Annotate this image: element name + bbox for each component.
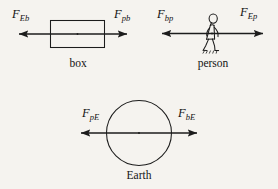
box-center-point [77,33,79,35]
force-label-F_Eb: FEb [12,8,29,22]
person-leg-back [203,39,208,50]
earth-center-point [138,132,140,134]
force-symbol-F_Ep: F [240,5,248,19]
force-label-F_Ep: FEp [240,6,257,20]
caption-box: box [52,58,104,70]
force-subscript-F_Eb: Eb [20,13,30,23]
person-center-point [211,33,213,35]
person-shoulders [210,25,214,26]
force-symbol-F_pE: F [82,106,90,120]
force-subscript-F_bE: bE [186,112,196,122]
force-symbol-F_pb: F [114,7,122,21]
diagram-canvas [0,0,278,189]
person-head [209,14,217,23]
force-label-F_bE: FbE [178,107,195,121]
force-subscript-F_pb: pb [122,13,131,23]
box-group [19,21,127,48]
force-symbol-F_Eb: F [12,7,20,21]
force-label-F_bp: Fbp [157,8,173,22]
force-subscript-F_Ep: Ep [248,11,258,21]
force-subscript-F_pE: pE [90,112,100,122]
caption-earth: Earth [113,170,165,182]
force-subscript-F_bp: bp [165,13,174,23]
force-label-F_pb: Fpb [114,8,130,22]
force-pair-diagram: FEb Fpb Fbp FEp FpE FbE box person Earth [0,0,278,189]
caption-person: person [187,58,239,70]
force-symbol-F_bE: F [178,106,186,120]
force-label-F_pE: FpE [82,107,99,121]
person-ground-hatching [203,51,217,53]
force-symbol-F_bp: F [157,7,165,21]
person-leg-front [212,39,215,50]
